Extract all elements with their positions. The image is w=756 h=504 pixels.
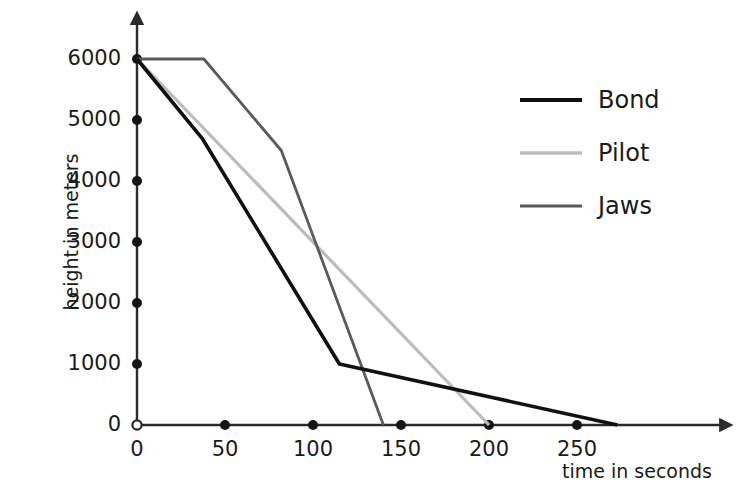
y-tick-dot (132, 176, 142, 186)
legend-label-pilot: Pilot (598, 139, 649, 167)
x-tick-dot (308, 420, 318, 430)
line-chart: 0100020003000400050006000 05010015020025… (0, 0, 756, 504)
x-tick-dot (220, 420, 230, 430)
series-line-bond (137, 59, 617, 425)
x-tick-dot (572, 420, 582, 430)
y-tick-label: 1000 (68, 351, 121, 375)
y-tick-label: 5000 (68, 107, 121, 131)
x-tick-label: 250 (557, 437, 597, 461)
chart-container: 0100020003000400050006000 05010015020025… (0, 0, 756, 504)
data-series-group (137, 59, 617, 425)
y-tick-dot (132, 237, 142, 247)
x-axis-title: time in seconds (562, 460, 712, 482)
y-tick-label: 0 (108, 412, 121, 436)
x-tick-label: 0 (130, 437, 143, 461)
legend-label-bond: Bond (598, 86, 660, 114)
x-tick-label: 50 (212, 437, 239, 461)
x-axis-tick-labels: 050100150200250 (130, 437, 597, 461)
legend: BondPilotJaws (520, 86, 660, 220)
y-tick-dot (132, 359, 142, 369)
y-tick-dot (132, 115, 142, 125)
series-line-jaws (137, 59, 383, 425)
x-tick-dot (396, 420, 406, 430)
x-tick-label: 200 (469, 437, 509, 461)
y-tick-dot-origin (132, 420, 141, 429)
x-tick-label: 150 (381, 437, 421, 461)
y-axis-title: height in meters (60, 153, 82, 310)
legend-label-jaws: Jaws (596, 192, 652, 220)
y-tick-label: 6000 (68, 46, 121, 70)
y-tick-dot (132, 298, 142, 308)
series-line-pilot (137, 59, 489, 425)
x-tick-label: 100 (293, 437, 333, 461)
